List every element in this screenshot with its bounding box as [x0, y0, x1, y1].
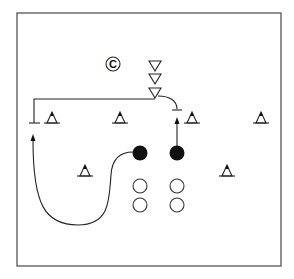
- defender-triangle-icon: [149, 74, 161, 84]
- arrowhead-icon: [175, 117, 180, 124]
- waiting-players: [133, 179, 184, 212]
- attackers: [133, 146, 185, 161]
- coach-label: C: [109, 58, 117, 70]
- route-defender-left-block: [29, 99, 155, 123]
- route-player-curl: [31, 134, 134, 225]
- cone-icon: [184, 112, 200, 123]
- attacker-dot: [170, 146, 185, 161]
- attacker-dot: [133, 146, 148, 161]
- drill-diagram: C: [0, 0, 294, 279]
- cone-icon: [77, 165, 93, 176]
- arrowhead-icon: [31, 134, 36, 141]
- waiting-player-dot: [170, 198, 184, 212]
- defenders-stack: [149, 61, 161, 98]
- waiting-player-dot: [133, 179, 147, 193]
- diagram-canvas: C: [0, 0, 294, 279]
- waiting-player-dot: [133, 198, 147, 212]
- cone-icon: [44, 112, 60, 123]
- cone-icon: [253, 112, 269, 123]
- coach-icon: C: [106, 57, 120, 71]
- route-player-forward: [175, 117, 180, 146]
- cone-icon: [112, 112, 128, 123]
- defender-triangle-icon: [149, 61, 161, 71]
- cones: [44, 112, 269, 176]
- route-defender-right-curve: [158, 96, 182, 110]
- cone-icon: [219, 165, 235, 176]
- field-boundary: [17, 13, 281, 266]
- waiting-player-dot: [170, 179, 184, 193]
